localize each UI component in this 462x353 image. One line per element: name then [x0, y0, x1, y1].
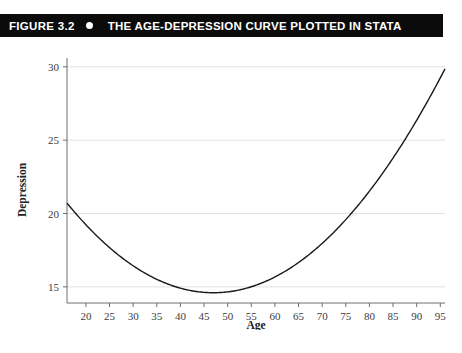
x-axis-ticks: [86, 303, 440, 307]
x-tick-label-75: 75: [340, 310, 352, 322]
y-axis-ticks: [63, 67, 67, 287]
x-tick-label-85: 85: [388, 310, 400, 322]
figure-header-bar: FIGURE 3.2 THE AGE-DEPRESSION CURVE PLOT…: [0, 14, 443, 37]
depression-curve-line: [67, 69, 445, 293]
y-axis-tick-labels: 15202530: [48, 61, 60, 293]
y-tick-label-30: 30: [48, 61, 60, 73]
chart-plot-area: 15202530 2025303540455055606570758085909…: [0, 40, 462, 330]
x-tick-label-30: 30: [128, 310, 140, 322]
x-tick-label-80: 80: [364, 310, 376, 322]
x-tick-label-50: 50: [222, 310, 234, 322]
chart-svg: 15202530 2025303540455055606570758085909…: [0, 40, 462, 330]
y-tick-label-20: 20: [48, 208, 60, 220]
y-tick-label-25: 25: [48, 134, 60, 146]
figure-root: FIGURE 3.2 THE AGE-DEPRESSION CURVE PLOT…: [0, 0, 462, 353]
x-tick-label-25: 25: [104, 310, 116, 322]
x-tick-label-95: 95: [435, 310, 447, 322]
clipped-caption-text: [32, 345, 432, 353]
figure-number-label: FIGURE 3.2: [9, 20, 75, 32]
x-tick-label-90: 90: [411, 310, 423, 322]
x-tick-label-45: 45: [199, 310, 211, 322]
figure-title-label: THE AGE-DEPRESSION CURVE PLOTTED IN STAT…: [108, 20, 402, 32]
x-tick-label-65: 65: [293, 310, 305, 322]
x-tick-label-60: 60: [269, 310, 281, 322]
bullet-dot-icon: [86, 22, 93, 29]
x-tick-label-40: 40: [175, 310, 187, 322]
y-axis-title: Depression: [16, 162, 29, 217]
grid-lines: [67, 67, 445, 287]
y-tick-label-15: 15: [48, 281, 60, 293]
axis-lines: [67, 58, 445, 303]
x-tick-label-70: 70: [317, 310, 329, 322]
x-tick-label-20: 20: [80, 310, 92, 322]
x-axis-title: Age: [246, 319, 265, 330]
x-tick-label-35: 35: [151, 310, 163, 322]
